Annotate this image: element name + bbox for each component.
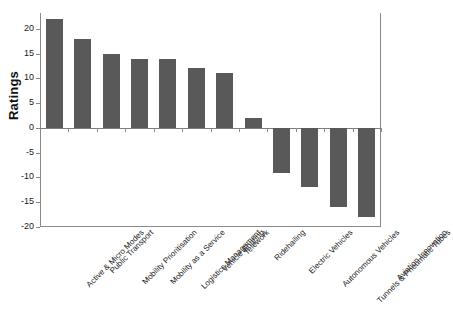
x-tick-mark	[353, 128, 354, 132]
x-axis-label: Aviation Innovation	[395, 228, 449, 282]
y-tick-mark	[36, 29, 40, 30]
bar	[245, 118, 262, 128]
bar	[330, 128, 347, 207]
y-tick-mark	[36, 153, 40, 154]
bar	[358, 128, 375, 217]
x-tick-mark	[267, 128, 268, 132]
bar	[74, 39, 91, 128]
x-tick-mark	[125, 128, 126, 132]
bar	[188, 68, 205, 127]
y-tick-mark	[36, 177, 40, 178]
x-axis-label: Electric Vehicles	[307, 228, 355, 276]
y-tick-mark	[36, 202, 40, 203]
x-axis-category-labels: Active & Micro ModesPublic TransportMobi…	[40, 228, 381, 323]
bar	[301, 128, 318, 187]
y-tick-mark	[36, 103, 40, 104]
x-tick-mark	[296, 128, 297, 132]
y-tick-mark	[36, 128, 40, 129]
y-tick-label: -20	[21, 221, 34, 232]
y-tick-mark	[36, 54, 40, 55]
bar	[159, 59, 176, 128]
y-tick-label: 10	[24, 72, 34, 83]
x-tick-mark	[97, 128, 98, 132]
y-tick-label: 0	[29, 122, 34, 133]
x-axis-label: Active & Micro Modes	[85, 228, 146, 289]
plot-area: 20151050-5-10-15-20	[40, 13, 381, 227]
y-tick-label: -5	[26, 147, 34, 158]
bar	[46, 19, 63, 128]
bar	[131, 59, 148, 128]
y-tick-label: 20	[24, 23, 34, 34]
y-tick-label: -10	[21, 171, 34, 182]
x-axis-label: Ridehailing	[273, 228, 307, 262]
x-tick-mark	[324, 128, 325, 132]
bar	[273, 128, 290, 173]
right-spine	[380, 13, 381, 227]
x-tick-mark	[211, 128, 212, 132]
y-tick-label: -15	[21, 196, 34, 207]
y-axis-title: Ratings	[6, 61, 21, 131]
y-tick-label: 15	[24, 48, 34, 59]
x-tick-mark	[381, 128, 382, 132]
x-tick-mark	[154, 128, 155, 132]
bar	[103, 54, 120, 128]
bar	[216, 73, 233, 127]
x-tick-mark	[239, 128, 240, 132]
y-tick-label: 5	[29, 97, 34, 108]
y-axis-line	[40, 13, 41, 227]
x-tick-mark	[182, 128, 183, 132]
y-tick-mark	[36, 78, 40, 79]
x-axis-frame-line	[40, 226, 381, 227]
x-tick-mark	[68, 128, 69, 132]
